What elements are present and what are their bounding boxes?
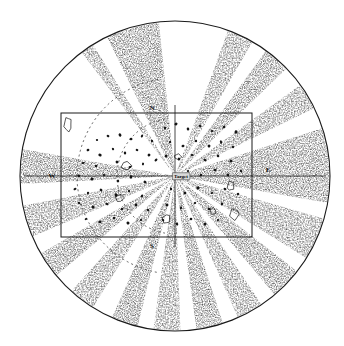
axis-label-east: E [266,166,271,174]
axis-label-south: S [150,242,154,250]
axis-label-north: N [149,104,154,112]
object-marker [96,139,98,141]
center-target-marker: Target [172,173,190,180]
axis-label-west: W [49,172,56,180]
radial-scatter-figure: Target N E S W [0,0,344,346]
figure-root: Target N E S W [0,0,344,346]
center-label-text: Target [174,174,188,179]
